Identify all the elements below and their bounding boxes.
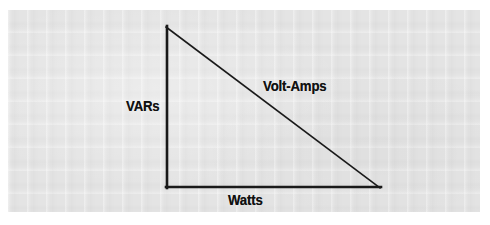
hypotenuse-line (166, 27, 380, 188)
volt-amps-label: Volt-Amps (263, 78, 326, 93)
power-triangle-figure: VARs Volt-Amps Watts (0, 0, 490, 225)
vars-label: VARs (126, 98, 160, 113)
watts-label: Watts (228, 192, 263, 207)
